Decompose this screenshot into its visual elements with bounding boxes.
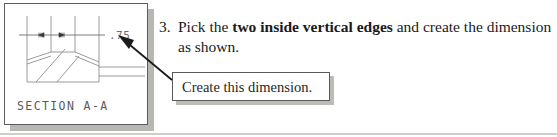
figure-frame: .75 SECTION A-A <box>4 3 148 125</box>
step-text: Pick the two inside vertical edges and c… <box>178 17 555 57</box>
arrow-block-right <box>58 33 65 38</box>
section-view-drawing: .75 SECTION A-A <box>5 4 149 126</box>
slope-line-d <box>75 56 99 66</box>
chamfer-left-upper <box>27 52 51 60</box>
cad-section-figure: .75 SECTION A-A <box>4 3 148 125</box>
step-text-emphasis: two inside vertical edges <box>232 18 393 35</box>
callout-box: Create this dimension. <box>172 72 330 101</box>
slope-line-b <box>57 56 79 82</box>
step-number: 3. <box>159 17 171 37</box>
step-text-before-bold: Pick the <box>178 18 232 35</box>
arrow-block-left <box>38 33 45 38</box>
page-bottom-rule <box>0 133 557 135</box>
dimension-value-text: .75 <box>109 29 130 42</box>
chamfer-left-lower <box>27 56 51 64</box>
callout-label: Create this dimension. <box>182 77 312 97</box>
section-caption: SECTION A-A <box>17 99 109 113</box>
